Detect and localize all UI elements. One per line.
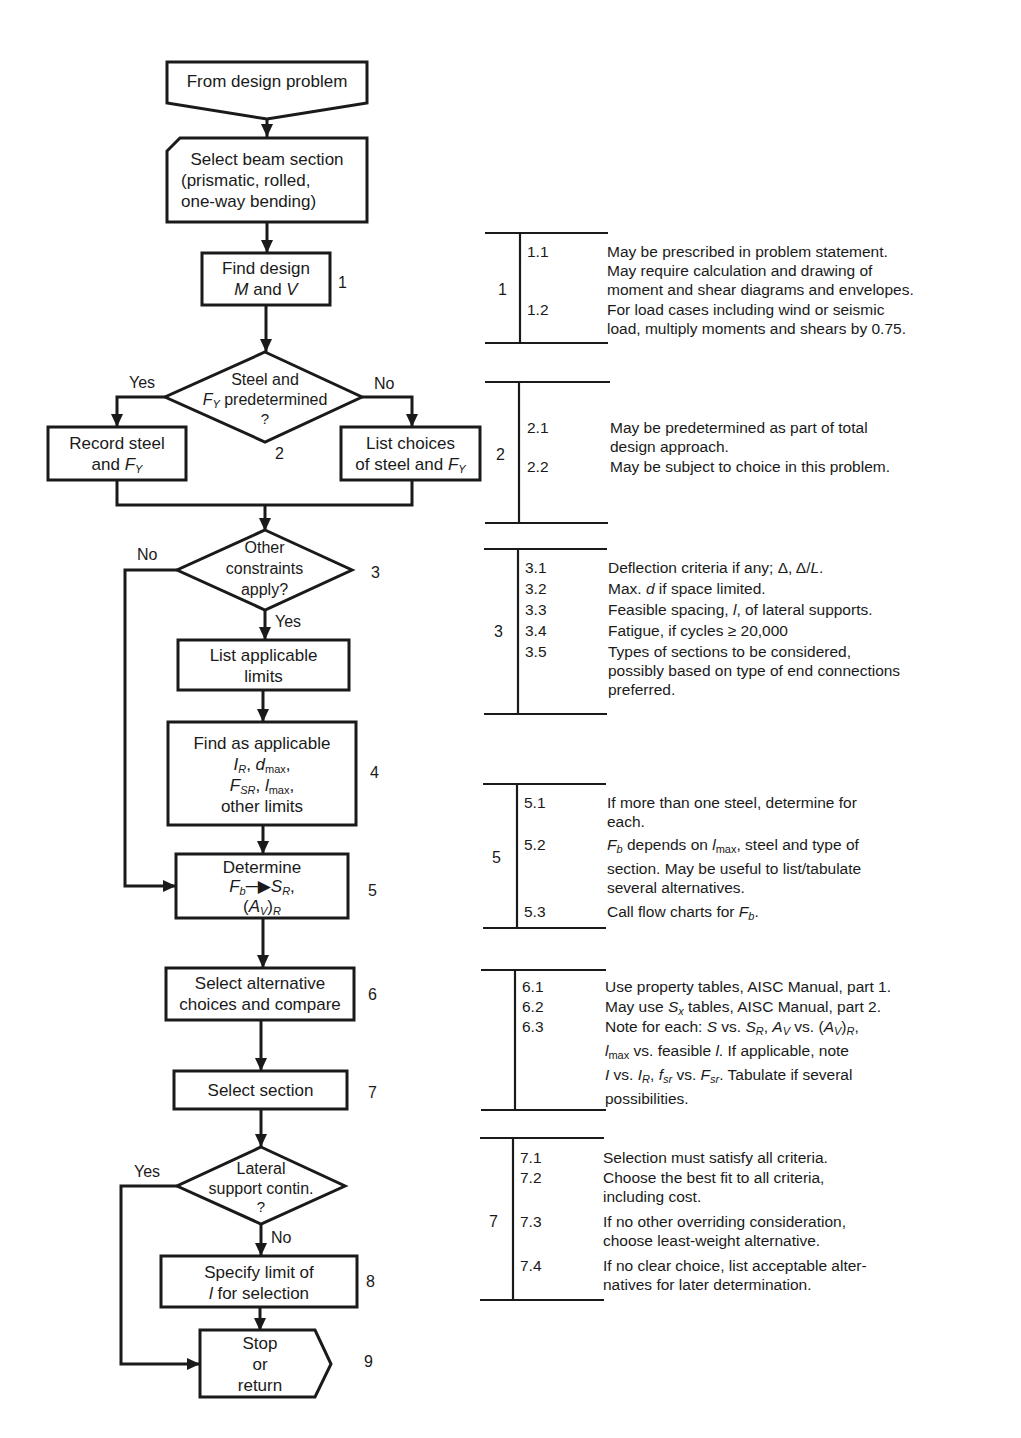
note-id: 3.3: [525, 600, 547, 619]
note-text: If more than one steel, determine for ea…: [607, 793, 857, 831]
step-number-9: 9: [364, 1352, 373, 1372]
step-number-3: 3: [371, 563, 380, 583]
arrow-down-icon: [255, 1243, 267, 1256]
note-text: Note for each: S vs. SR, AV vs. (AV)R, l…: [605, 1017, 859, 1108]
note-text: If no clear choice, list acceptable alte…: [603, 1256, 867, 1294]
specify-limit-line-1: Specify limit of: [161, 1262, 357, 1283]
note-text: May be prescribed in problem statement. …: [607, 242, 914, 299]
note-text: May be predetermined as part of total de…: [610, 418, 868, 456]
specify-limit-line-2: l for selection: [161, 1283, 357, 1304]
no-connector: [362, 397, 412, 427]
decision-lateral-line-3: ?: [177, 1196, 345, 1217]
decision-steel-line-1: Steel and: [165, 369, 365, 390]
stop-line-3: return: [200, 1375, 320, 1396]
note-text: For load cases including wind or seismic…: [607, 300, 906, 338]
note-id: 5.2: [524, 835, 546, 854]
step-number-5: 5: [368, 881, 377, 901]
notes-group-number: 1: [498, 280, 507, 300]
note-text: May be subject to choice in this problem…: [610, 457, 890, 476]
note-text: Use property tables, AISC Manual, part 1…: [605, 977, 891, 996]
note-text: Fb depends on lmax, steel and type of se…: [607, 835, 861, 897]
arrow-down-icon: [257, 955, 269, 968]
select-alternative-line-2: choices and compare: [166, 994, 354, 1015]
list-limits-line-2: limits: [178, 666, 349, 687]
arrow-down-icon: [111, 414, 123, 427]
step-number-8: 8: [366, 1272, 375, 1292]
note-id: 3.5: [525, 642, 547, 661]
note-text: Max. d if space limited.: [608, 579, 766, 598]
select-beam-line-3: one-way bending): [167, 191, 371, 212]
flowchart-canvas: [0, 0, 1021, 1438]
arrow-down-icon: [261, 124, 273, 137]
decision-constraints-line-2: constraints: [177, 558, 352, 579]
note-id: 7.1: [520, 1148, 542, 1167]
notes-group-number: 5: [492, 848, 501, 868]
note-text: Deflection criteria if any; Δ, Δ/L.: [608, 558, 823, 577]
find-design-line-1: Find design: [202, 258, 330, 279]
note-id: 1.1: [527, 242, 549, 261]
start-label: From design problem: [167, 71, 367, 92]
yes-connector: [117, 397, 165, 427]
decision-constraints-yes-label: Yes: [275, 612, 301, 632]
note-text: Selection must satisfy all criteria.: [603, 1148, 828, 1167]
decision-lateral-no-label: No: [271, 1228, 291, 1248]
record-steel-line-1: Record steel: [48, 433, 186, 454]
note-text: Types of sections to be considered, poss…: [608, 642, 900, 699]
select-section-label: Select section: [174, 1080, 347, 1101]
arrow-down-icon: [259, 627, 271, 640]
step-number-4: 4: [370, 763, 379, 783]
note-id: 6.3: [522, 1017, 544, 1036]
list-limits-line-1: List applicable: [178, 645, 349, 666]
notes-group-number: 2: [496, 445, 505, 465]
note-bracket-7: [480, 1138, 604, 1300]
arrow-down-icon: [257, 709, 269, 722]
decision-steel-no-label: No: [374, 374, 394, 394]
step-number-6: 6: [368, 985, 377, 1005]
merge-connector: [117, 480, 412, 505]
notes-group-number: 3: [494, 622, 503, 642]
stop-line-1: Stop: [200, 1333, 320, 1354]
note-text: Feasible spacing, l, of lateral supports…: [608, 600, 873, 619]
list-choices-line-1: List choices: [341, 433, 480, 454]
note-id: 5.3: [524, 902, 546, 921]
decision-steel-line-3: ?: [165, 408, 365, 429]
note-id: 7.2: [520, 1168, 542, 1187]
decision-lateral-line-1: Lateral: [177, 1158, 345, 1179]
note-text: Choose the best fit to all criteria, inc…: [603, 1168, 824, 1206]
step-number-2: 2: [275, 444, 284, 464]
note-id: 6.2: [522, 997, 544, 1016]
step-number-7: 7: [368, 1083, 377, 1103]
determine-line-3: (AV)R: [176, 896, 348, 922]
decision-constraints-line-1: Other: [177, 537, 352, 558]
list-choices-line-2: of steel and FY: [341, 454, 480, 480]
decision-steel-yes-label: Yes: [129, 373, 155, 393]
note-id: 3.2: [525, 579, 547, 598]
find-design-line-2: M and V: [202, 279, 330, 300]
select-alternative-line-1: Select alternative: [166, 973, 354, 994]
note-text: Call flow charts for Fb.: [607, 902, 759, 926]
arrow-down-icon: [260, 339, 272, 352]
note-id: 2.2: [527, 457, 549, 476]
note-text: Fatigue, if cycles ≥ 20,000: [608, 621, 788, 640]
note-id: 1.2: [527, 300, 549, 319]
select-beam-line-2: (prismatic, rolled,: [167, 170, 371, 191]
arrow-down-icon: [255, 1058, 267, 1071]
decision-lateral-yes-label: Yes: [134, 1162, 160, 1182]
note-id: 2.1: [527, 418, 549, 437]
stop-line-2: or: [200, 1354, 320, 1375]
note-id: 3.4: [525, 621, 547, 640]
arrow-down-icon: [406, 414, 418, 427]
note-id: 6.1: [522, 977, 544, 996]
note-id: 3.1: [525, 558, 547, 577]
arrow-right-icon: [187, 1358, 200, 1370]
note-text: If no other overriding consideration, ch…: [603, 1212, 846, 1250]
decision-constraints-no-label: No: [137, 545, 157, 565]
record-steel-line-2: and FY: [48, 454, 186, 480]
note-id: 7.3: [520, 1212, 542, 1231]
arrow-down-icon: [255, 1134, 267, 1147]
arrow-right-icon: [163, 880, 176, 892]
step-number-1: 1: [338, 273, 347, 293]
arrow-down-icon: [261, 240, 273, 253]
arrow-down-icon: [257, 841, 269, 854]
select-beam-line-1: Select beam section: [167, 149, 367, 170]
